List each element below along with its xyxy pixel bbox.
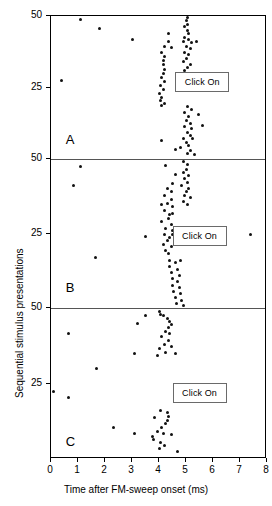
data-point bbox=[170, 345, 173, 348]
x-tick-label: 1 bbox=[67, 465, 87, 475]
data-point bbox=[163, 102, 166, 105]
data-point bbox=[185, 190, 188, 193]
data-point bbox=[182, 60, 185, 63]
data-point bbox=[168, 236, 171, 239]
data-point bbox=[112, 426, 115, 429]
y-tick bbox=[46, 158, 50, 159]
data-point bbox=[185, 57, 188, 60]
data-point bbox=[171, 284, 174, 287]
y-tick bbox=[46, 15, 50, 16]
data-point bbox=[72, 184, 75, 187]
data-point bbox=[187, 115, 190, 118]
data-point bbox=[170, 190, 173, 193]
data-point bbox=[191, 137, 194, 140]
data-point bbox=[164, 164, 167, 167]
data-point bbox=[186, 105, 189, 108]
data-point bbox=[158, 347, 161, 350]
data-point bbox=[167, 339, 170, 342]
data-point bbox=[183, 125, 186, 128]
data-point bbox=[193, 153, 196, 156]
x-tick bbox=[185, 458, 186, 462]
data-point bbox=[163, 343, 166, 346]
data-point bbox=[179, 292, 182, 295]
data-point bbox=[174, 148, 177, 151]
data-point bbox=[179, 146, 182, 149]
y-tick bbox=[46, 383, 50, 384]
data-point bbox=[189, 63, 192, 66]
data-point bbox=[187, 187, 190, 190]
data-point bbox=[160, 104, 163, 107]
data-point bbox=[190, 41, 193, 44]
x-tick-label: 7 bbox=[229, 465, 249, 475]
data-point bbox=[163, 45, 166, 48]
data-point bbox=[160, 76, 163, 79]
data-point bbox=[189, 196, 192, 199]
data-point bbox=[182, 304, 185, 307]
data-point bbox=[187, 144, 190, 147]
data-point bbox=[183, 194, 186, 197]
data-point bbox=[174, 261, 177, 264]
x-tick-label: 6 bbox=[202, 465, 222, 475]
data-point bbox=[186, 131, 189, 134]
x-tick bbox=[239, 458, 240, 462]
data-point bbox=[249, 233, 252, 236]
data-point bbox=[180, 299, 183, 302]
data-point bbox=[182, 160, 185, 163]
data-point bbox=[171, 212, 174, 215]
data-point bbox=[167, 252, 170, 255]
data-point bbox=[156, 430, 159, 433]
data-point bbox=[166, 187, 169, 190]
data-point bbox=[182, 137, 185, 140]
data-point bbox=[170, 271, 173, 274]
data-point bbox=[166, 239, 169, 242]
data-point bbox=[186, 152, 189, 155]
data-point bbox=[131, 38, 134, 41]
data-point bbox=[159, 84, 162, 87]
data-point bbox=[163, 55, 166, 58]
data-point bbox=[160, 51, 163, 54]
data-point bbox=[197, 113, 200, 116]
data-point bbox=[67, 332, 70, 335]
data-point bbox=[171, 182, 174, 185]
data-point bbox=[168, 332, 171, 335]
data-point bbox=[178, 274, 181, 277]
data-point bbox=[178, 286, 181, 289]
data-point bbox=[153, 416, 156, 419]
data-point bbox=[162, 432, 165, 435]
data-point bbox=[163, 444, 166, 447]
data-point bbox=[160, 203, 163, 206]
data-point bbox=[156, 354, 159, 357]
data-point bbox=[167, 40, 170, 43]
x-tick bbox=[50, 458, 51, 462]
panel-letter-b: B bbox=[66, 281, 75, 294]
data-point bbox=[160, 139, 163, 142]
data-point bbox=[160, 426, 163, 429]
data-point bbox=[190, 108, 193, 111]
x-tick-label: 3 bbox=[121, 465, 141, 475]
data-point bbox=[172, 290, 175, 293]
data-point bbox=[164, 330, 167, 333]
data-point bbox=[98, 27, 101, 30]
data-point bbox=[189, 149, 192, 152]
data-point bbox=[166, 202, 169, 205]
data-point bbox=[182, 40, 185, 43]
data-point bbox=[187, 174, 190, 177]
data-point bbox=[170, 323, 173, 326]
panel-divider-a-b bbox=[51, 159, 265, 160]
data-point bbox=[185, 168, 188, 171]
x-tick bbox=[266, 458, 267, 462]
data-point bbox=[167, 326, 170, 329]
click-on-label-a: Click On bbox=[175, 72, 229, 92]
data-point bbox=[160, 335, 163, 338]
data-point bbox=[163, 80, 166, 83]
data-point bbox=[183, 25, 186, 28]
data-point bbox=[176, 268, 179, 271]
data-point bbox=[164, 422, 167, 425]
data-point bbox=[195, 40, 198, 43]
data-point bbox=[159, 441, 162, 444]
data-point bbox=[158, 447, 161, 450]
data-point bbox=[158, 92, 161, 95]
data-point bbox=[174, 296, 177, 299]
raster-plot-figure: ABC Click OnClick OnClick On 012345678 2… bbox=[0, 0, 272, 506]
data-point bbox=[187, 32, 190, 35]
